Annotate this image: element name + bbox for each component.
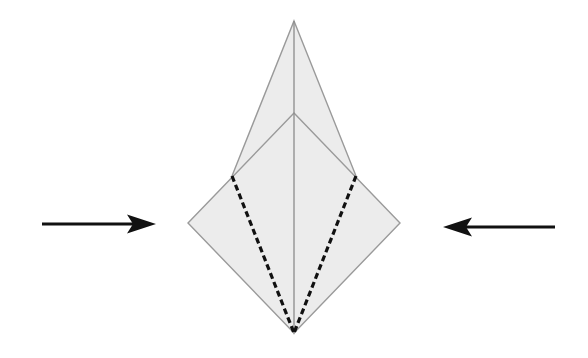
origami-diagram <box>0 0 588 358</box>
